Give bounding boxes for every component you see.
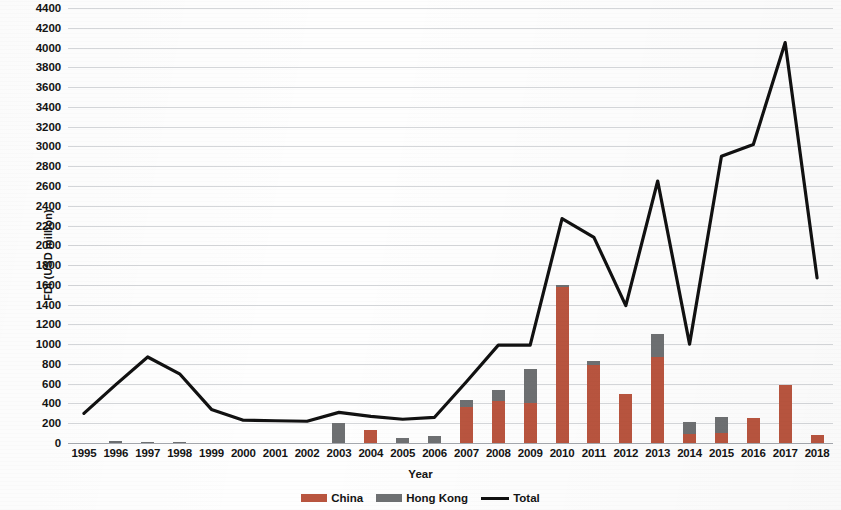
x-axis-tick-labels: 1995199619971998199920002001200220032004… [68,447,833,463]
y-axis-tick-label: 1200 [36,318,61,330]
y-axis-tick-label: 200 [42,417,61,429]
legend-color-swatch [376,494,402,502]
x-axis-tick-label: 1999 [199,447,224,459]
y-axis-tick-label: 1000 [36,338,61,350]
x-axis-tick-label: 2001 [263,447,288,459]
x-axis-tick-label: 2000 [231,447,256,459]
x-axis-tick-label: 2006 [422,447,447,459]
y-axis-tick-label: 3600 [36,81,61,93]
x-axis-tick-label: 2018 [805,447,830,459]
gridline [68,443,833,444]
y-axis-tick-label: 400 [42,397,61,409]
y-axis-tick-label: 1400 [36,299,61,311]
x-axis-tick-label: 2007 [454,447,479,459]
x-axis-tick-label: 2010 [550,447,575,459]
y-axis-tick-label: 2600 [36,180,61,192]
y-axis-tick-label: 2000 [36,239,61,251]
x-axis-tick-label: 2013 [645,447,670,459]
x-axis-tick-label: 2011 [582,447,606,459]
x-axis-tick-label: 2016 [741,447,766,459]
y-axis-tick-label: 3200 [36,121,61,133]
y-axis-tick-label: 2400 [36,200,61,212]
y-axis-tick-label: 4400 [36,2,61,14]
x-axis-title: Year [0,468,841,480]
total-line-svg [68,8,833,443]
legend-color-swatch [301,494,327,502]
y-axis-tick-label: 3800 [36,61,61,73]
y-axis-tick-label: 1600 [36,279,61,291]
x-axis-tick-label: 1996 [103,447,128,459]
x-axis-tick-label: 1995 [72,447,97,459]
y-axis-tick-label: 2200 [36,220,61,232]
legend-label: Total [513,492,540,504]
total-line-layer [68,8,833,443]
chart-legend: ChinaHong KongTotal [0,492,841,504]
x-axis-tick-label: 2003 [327,447,352,459]
x-axis-tick-label: 2002 [295,447,320,459]
fdi-chart-figure: FDI (USD million) 0200400600800100012001… [0,0,841,510]
y-axis-tick-label: 3000 [36,140,61,152]
y-axis-tick-label: 4200 [36,22,61,34]
plot-area: 0200400600800100012001400160018002000220… [68,8,833,443]
x-axis-tick-label: 1997 [135,447,160,459]
total-line [84,43,817,422]
legend-label: China [331,492,363,504]
legend-item: Hong Kong [376,492,468,504]
legend-item: China [301,492,363,504]
legend-line-swatch [481,497,509,500]
x-axis-tick-label: 2008 [486,447,511,459]
x-axis-tick-label: 1998 [167,447,192,459]
x-axis-tick-label: 2009 [518,447,543,459]
y-axis-tick-label: 2800 [36,160,61,172]
x-axis-tick-label: 2014 [677,447,702,459]
y-axis-tick-label: 3400 [36,101,61,113]
x-axis-tick-label: 2012 [613,447,638,459]
legend-item: Total [481,492,540,504]
y-axis-tick-label: 0 [55,437,61,449]
y-axis-tick-label: 4000 [36,42,61,54]
legend-label: Hong Kong [406,492,468,504]
x-axis-tick-label: 2004 [358,447,383,459]
y-axis-tick-label: 800 [42,358,61,370]
y-axis-tick-label: 600 [42,378,61,390]
x-axis-tick-label: 2015 [709,447,734,459]
x-axis-tick-label: 2017 [773,447,798,459]
y-axis-tick-label: 1800 [36,259,61,271]
x-axis-tick-label: 2005 [390,447,415,459]
